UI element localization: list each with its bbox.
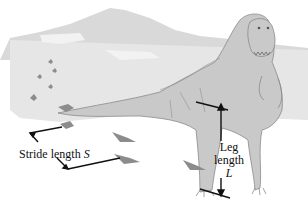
stride-length-text: Stride length xyxy=(19,147,81,161)
leg-length-label: Leg length L xyxy=(212,141,246,180)
stride-variable: S xyxy=(84,147,90,161)
stride-length-label: Stride length S xyxy=(19,148,90,161)
leg-variable: L xyxy=(226,166,233,180)
illustration xyxy=(0,0,308,209)
dinosaur-eye-2 xyxy=(267,27,270,30)
dinosaur-eye xyxy=(258,27,261,30)
dinosaur-head xyxy=(248,19,275,57)
dinosaur-diagram: Stride length S Leg length L xyxy=(0,0,308,209)
